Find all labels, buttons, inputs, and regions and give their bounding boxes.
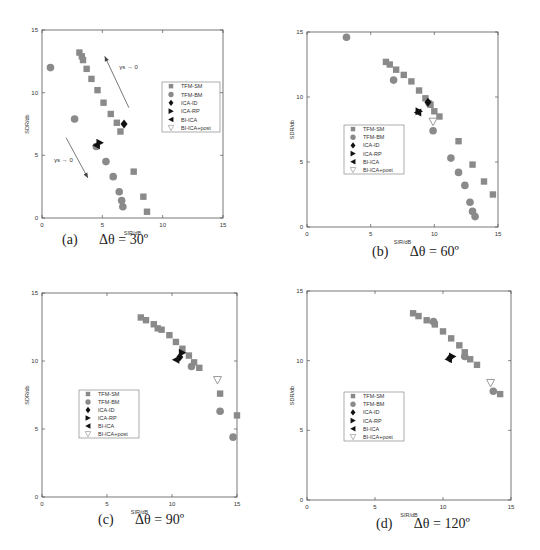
caption-text: Δθ = 60º <box>410 244 459 259</box>
data-point <box>119 203 127 211</box>
data-point <box>469 161 475 167</box>
data-point <box>415 313 421 319</box>
x-tick-label: 0 <box>305 231 309 237</box>
annotation-text: γs → 0 <box>119 64 138 70</box>
legend-label: ICA-RP <box>98 415 117 421</box>
legend-label: ICA-RP <box>363 418 382 424</box>
data-point <box>80 57 86 63</box>
y-tick-label: 0 <box>300 497 304 503</box>
legend: TFM-SMTFM-BMICA-IDICA-RPBI-ICABI-ICA+pos… <box>344 392 404 441</box>
data-point <box>143 317 149 323</box>
x-tick-label: 0 <box>305 504 309 510</box>
legend-label: BI-ICA+post <box>363 167 393 173</box>
data-point <box>423 317 429 323</box>
legend-marker-square-icon <box>169 84 173 88</box>
data-point <box>455 169 463 177</box>
data-point <box>447 154 455 162</box>
data-point <box>114 120 120 126</box>
y-tick-label: 15 <box>31 27 38 33</box>
legend-marker <box>86 392 90 396</box>
legend-marker-circle-icon <box>350 402 355 407</box>
data-point <box>158 327 164 333</box>
data-point <box>144 209 150 215</box>
x-tick-label: 10 <box>431 231 438 237</box>
data-point <box>108 111 114 117</box>
series-tfm-bm <box>188 363 237 441</box>
chart-panel-a: 051015051015SIR/dBSDR/dbγs → 0γs → 0TFM-… <box>24 27 227 236</box>
legend-label: TFM-SM <box>98 391 120 397</box>
caption-label: (c) <box>98 512 114 527</box>
y-tick-label: 15 <box>296 288 303 294</box>
data-point <box>343 33 351 41</box>
data-point <box>131 168 137 174</box>
annotation-text: γs → 0 <box>54 157 73 163</box>
data-point <box>416 87 422 93</box>
legend-marker <box>350 135 355 140</box>
y-axis-label: SDR/db <box>289 120 295 139</box>
legend-label: TFM-SM <box>363 126 385 132</box>
data-point <box>117 128 123 134</box>
legend-marker-circle-icon <box>350 135 355 140</box>
y-tick-label: 5 <box>300 159 304 165</box>
data-point <box>173 339 179 345</box>
y-axis-label: SDR/db <box>289 386 295 405</box>
y-tick-label: 0 <box>35 494 39 500</box>
legend-label: BI-ICA+post <box>181 125 211 131</box>
data-point <box>390 76 398 84</box>
legend-label: BI-ICA <box>363 159 380 165</box>
y-tick-label: 5 <box>35 152 39 158</box>
legend-label: ICA-RP <box>181 108 200 114</box>
data-point <box>471 213 479 221</box>
data-point <box>115 188 123 196</box>
chart-panel-b: 051015051015SIR/dBSDR/dbTFM-SMTFM-BMICA-… <box>289 29 502 245</box>
data-point <box>440 328 446 334</box>
legend-marker-square-icon <box>86 392 90 396</box>
data-point <box>166 332 172 338</box>
series-bi-ica-post <box>429 118 437 126</box>
y-axis-label: SDR/db <box>24 385 30 404</box>
data-point <box>490 388 498 396</box>
series-bi-ica-post <box>487 379 495 387</box>
plot-frame <box>42 293 237 497</box>
data-point <box>140 193 146 199</box>
data-point <box>393 67 399 73</box>
y-tick-label: 15 <box>296 29 303 35</box>
caption-label: (d) <box>376 516 392 531</box>
legend-label: ICA-ID <box>181 100 198 106</box>
legend-marker-square-icon <box>351 127 355 131</box>
x-tick-label: 15 <box>220 222 227 228</box>
legend-marker <box>169 84 173 88</box>
legend-marker <box>168 92 173 97</box>
data-point <box>474 362 480 368</box>
legend-label: BI-ICA+post <box>98 431 128 437</box>
data-point <box>497 391 503 397</box>
legend-label: TFM-BM <box>363 134 385 140</box>
chart-panel-d: 051015051015SIR/dBSDR/dbTFM-SMTFM-BMICA-… <box>289 288 515 518</box>
x-tick-label: 15 <box>495 231 502 237</box>
y-tick-label: 10 <box>296 94 303 100</box>
data-point <box>196 365 202 371</box>
legend-marker <box>350 402 355 407</box>
data-point <box>47 64 55 72</box>
legend: TFM-SMTFM-BMICA-IDICA-RPBI-ICABI-ICA+pos… <box>344 125 404 174</box>
data-point <box>448 335 454 341</box>
data-point <box>100 99 106 105</box>
data-point <box>429 127 437 135</box>
caption-a: (a) Δθ = 30º <box>62 232 148 248</box>
data-point <box>234 412 240 418</box>
data-point <box>387 61 393 67</box>
x-tick-label: 15 <box>508 504 515 510</box>
x-tick-label: 5 <box>105 501 109 507</box>
x-tick-label: 10 <box>169 501 176 507</box>
data-point <box>466 199 474 207</box>
y-axis-label: SDR/db <box>24 114 30 133</box>
legend-label: BI-ICA <box>98 423 115 429</box>
y-tick-label: 15 <box>31 290 38 296</box>
data-point <box>401 72 407 78</box>
x-tick-label: 0 <box>40 222 44 228</box>
legend-label: TFM-SM <box>363 393 385 399</box>
series-tfm-bm <box>430 318 497 395</box>
y-tick-label: 10 <box>31 90 38 96</box>
data-point <box>216 408 224 416</box>
legend-marker <box>351 394 355 398</box>
